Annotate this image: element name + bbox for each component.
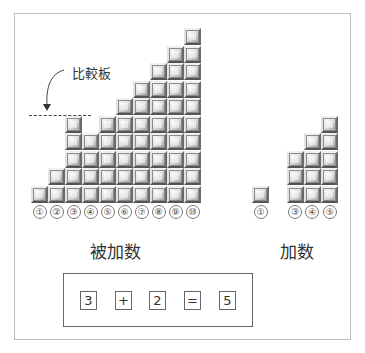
augend-block [116, 133, 133, 150]
augend-block [65, 133, 82, 150]
augend-column-label: ⑩ [186, 205, 200, 219]
augend-block [116, 116, 133, 133]
addend-block [304, 151, 321, 168]
addend-block [304, 133, 321, 150]
augend-column-label: ③ [67, 205, 81, 219]
augend-block [133, 133, 150, 150]
augend-block [184, 81, 201, 98]
augend-block [82, 186, 99, 203]
addend-block [321, 168, 338, 185]
addend-column-label: ⑤ [323, 205, 337, 219]
augend-block [150, 133, 167, 150]
augend-block [150, 151, 167, 168]
augend-block [150, 186, 167, 203]
addend-caption: 加数 [280, 238, 314, 263]
augend-block [65, 186, 82, 203]
augend-block [167, 98, 184, 115]
addend-block [304, 186, 321, 203]
addend-column-label: ① [254, 205, 268, 219]
addend-block [287, 168, 304, 185]
augend-block [133, 186, 150, 203]
augend-block [184, 133, 201, 150]
augend-block [133, 81, 150, 98]
augend-block [65, 168, 82, 185]
augend-column-label: ⑧ [152, 205, 166, 219]
augend-block [150, 63, 167, 80]
augend-block [150, 116, 167, 133]
augend-block [99, 133, 116, 150]
augend-block [65, 116, 82, 133]
augend-block [133, 168, 150, 185]
equation-augend: 3 [80, 291, 97, 310]
augend-block [184, 186, 201, 203]
augend-column-label: ⑦ [135, 205, 149, 219]
augend-block [99, 168, 116, 185]
augend-block [116, 168, 133, 185]
augend-block [167, 46, 184, 63]
augend-block [167, 81, 184, 98]
augend-block [48, 186, 65, 203]
augend-column-label: ⑥ [118, 205, 132, 219]
augend-block [150, 81, 167, 98]
addend-block [321, 186, 338, 203]
augend-block [99, 116, 116, 133]
augend-block [167, 168, 184, 185]
augend-block [184, 28, 201, 45]
augend-block [150, 168, 167, 185]
augend-block [116, 151, 133, 168]
augend-block [167, 63, 184, 80]
augend-caption: 被加数 [90, 238, 141, 263]
augend-block [99, 186, 116, 203]
augend-column-label: ① [33, 205, 47, 219]
augend-block [31, 186, 48, 203]
augend-block [150, 98, 167, 115]
addend-block [321, 151, 338, 168]
augend-block [65, 151, 82, 168]
addend-block [252, 186, 269, 203]
equation-addend: 2 [149, 291, 166, 310]
equation-sum: 5 [219, 291, 236, 310]
augend-block [48, 168, 65, 185]
addend-block [287, 186, 304, 203]
augend-block [167, 151, 184, 168]
augend-column-label: ⑤ [101, 205, 115, 219]
addend-block [321, 116, 338, 133]
augend-block [133, 151, 150, 168]
augend-block [184, 46, 201, 63]
augend-block [184, 151, 201, 168]
comparison-board-label: 比較板 [72, 63, 111, 82]
augend-column-label: ④ [84, 205, 98, 219]
augend-block [167, 133, 184, 150]
addend-block [287, 151, 304, 168]
equation-equals-sign: = [184, 291, 201, 310]
augend-block [184, 116, 201, 133]
augend-block [99, 151, 116, 168]
equation-box: 3 + 2 = 5 [63, 273, 253, 327]
equation-plus-sign: + [115, 291, 132, 310]
augend-block [116, 98, 133, 115]
curved-arrow-icon [36, 66, 68, 114]
augend-column-label: ⑨ [169, 205, 183, 219]
augend-block [116, 186, 133, 203]
augend-block [133, 116, 150, 133]
augend-block [184, 98, 201, 115]
addend-block [304, 168, 321, 185]
augend-block [184, 63, 201, 80]
augend-block [82, 168, 99, 185]
augend-block [133, 98, 150, 115]
augend-block [82, 133, 99, 150]
addend-block [321, 133, 338, 150]
augend-block [167, 186, 184, 203]
addend-column-label: ③ [288, 205, 302, 219]
augend-column-label: ② [50, 205, 64, 219]
augend-block [167, 116, 184, 133]
augend-block [184, 168, 201, 185]
augend-block [82, 151, 99, 168]
